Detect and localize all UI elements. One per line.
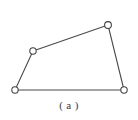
figure-container: ( a ) (0, 0, 138, 120)
figure-caption: ( a ) (0, 99, 138, 112)
quad-vertex-top-right (105, 22, 112, 29)
quad-vertex-bottom-left (12, 87, 18, 93)
edges-group (15, 25, 124, 90)
quad-edge-top-edge (33, 25, 108, 51)
quad-vertex-mid-left (30, 48, 36, 54)
quad-edge-right-edge (108, 25, 124, 90)
quad-vertex-bottom-right (121, 87, 127, 93)
quad-edge-left-edge (15, 51, 33, 90)
